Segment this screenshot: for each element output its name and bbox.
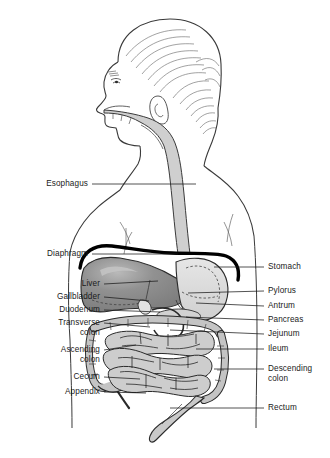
label-pylorus: Pylorus <box>268 286 296 296</box>
label-esophagus: Esophagus <box>46 179 88 189</box>
label-stomach: Stomach <box>268 262 301 272</box>
label-liver: Liver <box>82 279 100 289</box>
label-gallbladder: Gallbladder <box>57 292 100 302</box>
small-intestine-organ <box>103 331 214 397</box>
label-jejunum: Jejunum <box>268 329 300 339</box>
label-pancreas: Pancreas <box>268 315 303 325</box>
label-ascending-colon: Ascendingcolon <box>61 345 100 364</box>
label-rectum: Rectum <box>268 403 297 413</box>
label-cecum: Cecum <box>74 372 100 382</box>
digestive-system-diagram <box>0 0 330 458</box>
label-appendix: Appendix <box>65 387 100 397</box>
label-diaphragm: Diaphragm <box>47 249 88 259</box>
label-ileum: Ileum <box>268 344 289 354</box>
label-duodenum: Duodenum <box>59 305 100 315</box>
label-transverse-colon: Transversecolon <box>58 318 100 337</box>
label-descending-colon: Descendingcolon <box>268 364 312 383</box>
label-antrum: Antrum <box>268 301 295 311</box>
